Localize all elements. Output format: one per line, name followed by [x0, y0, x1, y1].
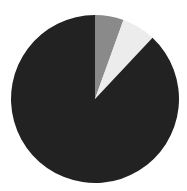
- pie-chart: [0, 0, 187, 191]
- pie-chart-svg: [0, 0, 187, 191]
- pie-slice-3: [11, 15, 179, 183]
